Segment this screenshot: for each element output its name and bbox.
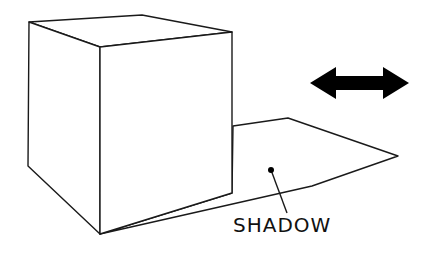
double-arrow-icon (310, 67, 409, 99)
leader-dot (268, 167, 274, 173)
cube-shadow-illustration (0, 0, 427, 260)
shadow-label: SHADOW (233, 215, 331, 235)
cube-left-face (28, 22, 100, 234)
diagram-canvas: SHADOW (0, 0, 427, 260)
